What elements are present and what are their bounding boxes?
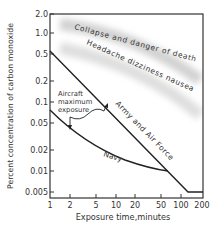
x-tick-label: 200 <box>194 201 209 210</box>
annotation-line: maximum <box>58 98 93 106</box>
y-tick-label: 0.02 <box>30 146 48 155</box>
x-axis <box>70 194 181 198</box>
y-tick-label: 0.005 <box>25 188 48 197</box>
y-tick-labels: 2.0 1.0 0.5 0.2 0.1 0.05 0.02 0.01 0.005 <box>25 10 48 197</box>
x-tick-label: 100 <box>173 201 188 210</box>
y-tick-label: 0.2 <box>35 77 48 86</box>
y-axis-title: Percent concentration of carbon monoxide <box>6 23 15 189</box>
series-label-navy: Navy <box>102 149 124 164</box>
y-tick-label: 0.01 <box>30 167 48 176</box>
annotation-line: Aircraft <box>58 90 83 98</box>
x-tick-label: 10 <box>111 201 121 210</box>
annotation-line: exposure <box>58 106 89 114</box>
y-tick-label: 1.0 <box>35 29 48 38</box>
annotation-aircraft-max-exposure: Aircraft maximum exposure <box>58 90 93 114</box>
x-tick-label: 20 <box>130 201 140 210</box>
x-tick-label: 50 <box>156 201 166 210</box>
y-tick-label: 0.5 <box>35 50 48 59</box>
x-axis-title: Exposure time,minutes <box>76 212 171 222</box>
co-exposure-chart: Collapse and danger of death Headache di… <box>0 0 222 232</box>
x-tick-labels: 1 2 5 10 20 50 100 200 <box>47 201 209 210</box>
series-label-army: Army and Air Force <box>114 99 176 162</box>
y-tick-label: 2.0 <box>35 10 48 19</box>
x-tick-label: 5 <box>93 201 98 210</box>
x-tick-label: 1 <box>47 201 52 210</box>
y-tick-label: 0.05 <box>30 119 48 128</box>
y-tick-label: 0.1 <box>35 98 48 107</box>
x-tick-label: 2 <box>67 201 72 210</box>
